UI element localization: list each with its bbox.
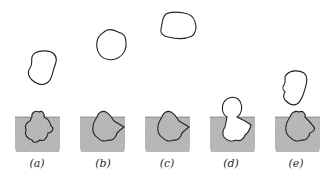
free-particle-b (97, 30, 127, 60)
panel-label-a: (a) (22, 157, 52, 170)
panel-label-c: (c) (152, 157, 182, 170)
panel-a (15, 51, 60, 152)
free-particle-e (283, 71, 307, 105)
panel-e (275, 71, 320, 152)
panel-label-d: (d) (216, 157, 246, 170)
substrate-block-a (15, 111, 60, 152)
panel-d (210, 97, 255, 152)
panel-label-e: (e) (281, 157, 311, 170)
panel-b (80, 30, 126, 152)
cavity-figure (0, 0, 330, 178)
panel-label-b: (b) (88, 157, 118, 170)
panel-c (145, 12, 196, 152)
free-particle-a (28, 51, 56, 85)
free-particle-c (161, 12, 196, 38)
